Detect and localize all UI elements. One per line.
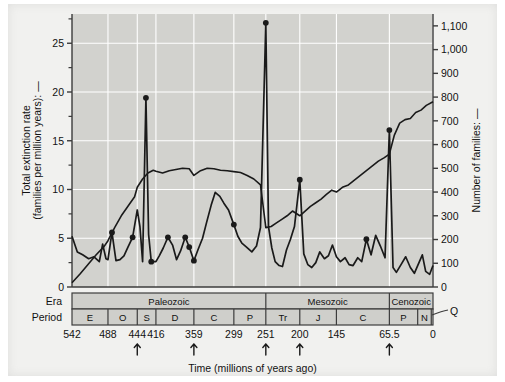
right-axis-tick-label: 200 <box>441 233 459 245</box>
right-axis-tick-label: 1,000 <box>441 43 467 55</box>
left-axis-tick-label: 15 <box>52 135 64 147</box>
plot-area-background <box>72 14 433 287</box>
extinction-peak-marker <box>186 244 192 250</box>
left-axis-tick-label: 25 <box>52 37 64 49</box>
right-axis-tick-label: 700 <box>441 115 459 127</box>
extinction-rate-chart: 051015202501002003004005006007008009001,… <box>8 4 497 376</box>
period-band-label: O <box>119 312 126 323</box>
right-axis-title: Number of families: — <box>470 108 482 212</box>
mass-extinction-arrow <box>134 344 140 355</box>
time-axis-tick-label: 488 <box>99 328 117 340</box>
right-axis-tick-label: 500 <box>441 162 459 174</box>
time-axis-tick-label: 444 <box>129 328 147 340</box>
extinction-peak-marker <box>191 258 197 264</box>
left-axis-tick-label: 10 <box>52 183 64 195</box>
extinction-peak-marker <box>143 95 149 101</box>
time-axis-tick-label: 65.5 <box>379 328 400 340</box>
time-axis-tick-label: 251 <box>257 328 275 340</box>
left-axis-title-line2: (families per million years): — <box>31 81 43 220</box>
time-axis-tick-label: 200 <box>291 328 309 340</box>
time-axis-tick-label: 416 <box>147 328 165 340</box>
right-axis-tick-label: 100 <box>441 257 459 269</box>
period-row-label: Period <box>32 311 63 323</box>
right-axis-tick-label: 300 <box>441 210 459 222</box>
extinction-peak-marker <box>148 259 154 265</box>
mass-extinction-arrow <box>191 344 197 355</box>
time-axis-title: Time (millions of years ago) <box>188 362 317 374</box>
extinction-peak-marker <box>182 234 188 240</box>
period-band-label: J <box>316 312 321 323</box>
period-band-label: Tr <box>278 312 287 323</box>
quaternary-callout-label: Q <box>450 305 458 317</box>
right-axis-tick-label: 600 <box>441 138 459 150</box>
era-row-label: Era <box>46 295 63 307</box>
left-axis-tick-label: 5 <box>58 232 64 244</box>
right-axis-tick-label: 400 <box>441 186 459 198</box>
right-axis-tick-label: 1,100 <box>441 20 467 32</box>
period-band-label: P <box>247 312 253 323</box>
figure-panel: 051015202501002003004005006007008009001,… <box>8 4 497 376</box>
time-axis-tick-label: 299 <box>225 328 243 340</box>
extinction-peak-marker <box>386 127 392 133</box>
era-band-label: Mesozoic <box>308 296 348 307</box>
quaternary-leader-line <box>432 310 448 315</box>
extinction-peak-marker <box>363 236 369 242</box>
period-band-label: P <box>400 312 406 323</box>
mass-extinction-arrow <box>386 344 392 355</box>
period-band-label: D <box>171 312 178 323</box>
right-axis-tick-label: 800 <box>441 91 459 103</box>
period-band-label: E <box>87 312 93 323</box>
right-axis-tick-label: 0 <box>441 281 447 293</box>
extinction-peak-marker <box>297 177 303 183</box>
period-band-label: C <box>210 312 217 323</box>
period-band-label: C <box>359 312 366 323</box>
period-band-label: N <box>421 312 428 323</box>
time-axis-tick-label: 0 <box>430 328 436 340</box>
left-axis-tick-label: 20 <box>52 86 64 98</box>
mass-extinction-arrow <box>263 344 269 355</box>
left-axis-tick-label: 0 <box>58 281 64 293</box>
extinction-peak-marker <box>231 222 237 228</box>
era-band-row <box>72 293 433 309</box>
extinction-peak-marker <box>165 234 171 240</box>
period-band-label: S <box>143 312 149 323</box>
time-axis-tick-label: 145 <box>328 328 346 340</box>
right-axis-tick-label: 900 <box>441 67 459 79</box>
time-axis-tick-label: 542 <box>63 328 81 340</box>
time-axis-tick-label: 359 <box>185 328 203 340</box>
extinction-peak-marker <box>130 234 136 240</box>
mass-extinction-arrow <box>297 344 303 355</box>
era-band-label: Paleozoic <box>148 296 189 307</box>
era-band-label: Cenozoic <box>391 296 431 307</box>
extinction-peak-marker <box>263 20 269 26</box>
extinction-peak-marker <box>109 230 115 236</box>
